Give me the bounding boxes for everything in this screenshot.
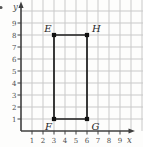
problem-number-fragment: [0, 6, 3, 9]
vertex-point-H: [85, 33, 89, 37]
y-tick-label: 7: [12, 44, 16, 52]
x-tick-label: 5: [74, 137, 78, 145]
vertex-label-F: F: [44, 121, 53, 132]
x-tick-label: 9: [118, 137, 122, 145]
x-tick-label: 3: [52, 137, 56, 145]
rectangle-EFGH: [54, 35, 87, 119]
y-tick-label: 3: [12, 92, 16, 100]
y-tick-label: 8: [12, 32, 16, 40]
x-tick-label: 1: [30, 137, 34, 145]
y-tick-label: 5: [12, 68, 16, 76]
x-tick-label: 8: [107, 137, 111, 145]
vertex-label-E: E: [43, 23, 52, 34]
y-tick-label: 2: [12, 104, 16, 112]
x-tick-label: 2: [41, 137, 45, 145]
y-tick-label: 4: [12, 80, 17, 88]
vertex-point-F: [52, 117, 56, 121]
y-tick-label: 1: [12, 116, 16, 124]
y-tick-label: 6: [12, 56, 17, 64]
x-tick-label: 7: [96, 137, 100, 145]
vertex-point-G: [85, 117, 89, 121]
x-tick-label: 4: [63, 137, 68, 145]
coordinate-plane-figure: 123456789123456789yxEHGF: [0, 0, 143, 147]
x-tick-label: 6: [85, 137, 90, 145]
right-arrow-icon: [129, 128, 136, 133]
x-axis-label: x: [127, 135, 132, 145]
up-arrow-icon: [18, 2, 23, 9]
y-tick-label: 9: [12, 20, 16, 28]
vertex-label-H: H: [91, 23, 101, 34]
vertex-point-E: [52, 33, 56, 37]
y-axis-label: y: [12, 2, 18, 12]
coordinate-grid: 123456789123456789yxEHGF: [0, 0, 143, 147]
vertex-label-G: G: [92, 121, 100, 132]
